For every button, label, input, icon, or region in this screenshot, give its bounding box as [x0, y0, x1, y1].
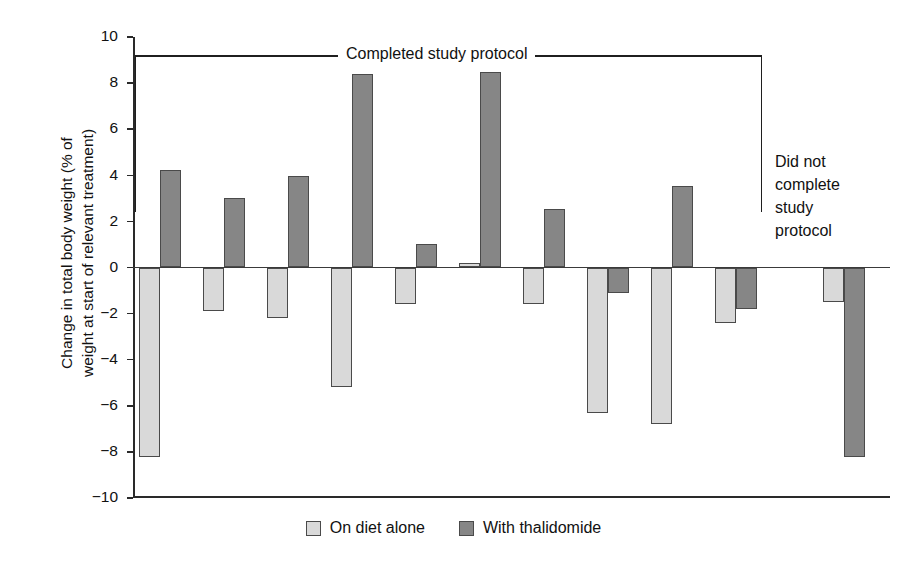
y-axis-title: Change in total body weight (% of weight…	[56, 58, 98, 448]
y-tick: −10	[127, 497, 133, 499]
y-tick: −4	[127, 359, 133, 361]
bar-with-thalidomide	[672, 186, 693, 268]
did-not-complete-study-protocol-note: Did not complete study protocol	[775, 150, 840, 242]
bar-on-diet-alone	[651, 268, 672, 425]
bar-on-diet-alone	[715, 268, 736, 323]
y-tick-label: 0	[109, 259, 118, 275]
y-tick-label: 2	[109, 213, 118, 229]
zero-line	[133, 267, 890, 268]
bar-on-diet-alone	[331, 268, 352, 388]
y-tick-label: 6	[109, 121, 118, 137]
bar-with-thalidomide	[608, 268, 629, 293]
y-tick-label: 8	[109, 75, 118, 91]
bar-with-thalidomide	[480, 72, 501, 268]
bar-with-thalidomide	[352, 74, 373, 268]
y-tick: 2	[127, 221, 133, 223]
legend-item-on-diet-alone: On diet alone	[306, 520, 425, 536]
bar-on-diet-alone	[823, 268, 844, 303]
light-swatch-icon	[306, 521, 321, 536]
chart-figure: Change in total body weight (% of weight…	[0, 0, 907, 574]
y-tick: 8	[127, 82, 133, 84]
bar-on-diet-alone	[523, 268, 544, 305]
bar-with-thalidomide	[224, 198, 245, 267]
bar-on-diet-alone	[139, 268, 160, 457]
bar-on-diet-alone	[395, 268, 416, 305]
bar-on-diet-alone	[587, 268, 608, 413]
bar-with-thalidomide	[844, 268, 865, 457]
y-tick-label: −4	[100, 351, 118, 367]
dark-swatch-icon	[459, 521, 474, 536]
bar-with-thalidomide	[288, 176, 309, 267]
bar-on-diet-alone	[459, 263, 480, 268]
bar-with-thalidomide	[736, 268, 757, 309]
bar-on-diet-alone	[203, 268, 224, 312]
y-tick: −8	[127, 451, 133, 453]
bar-with-thalidomide	[160, 170, 181, 268]
bar-with-thalidomide	[544, 209, 565, 268]
legend-label-on-diet-alone: On diet alone	[330, 520, 425, 536]
y-tick-label: −8	[100, 443, 118, 459]
y-tick-label: −6	[100, 397, 118, 413]
y-tick: −2	[127, 313, 133, 315]
chart-legend: On diet alone With thalidomide	[0, 520, 907, 536]
plot-area: 1086420−2−4−6−8−10	[133, 37, 890, 498]
y-tick: −6	[127, 405, 133, 407]
bar-on-diet-alone	[267, 268, 288, 319]
bar-with-thalidomide	[416, 244, 437, 267]
completed-study-protocol-label: Completed study protocol	[338, 46, 535, 62]
y-tick-label: −2	[100, 305, 118, 321]
y-tick-label: −10	[92, 490, 118, 506]
y-tick-label: 10	[101, 29, 118, 45]
x-axis-line	[133, 496, 890, 498]
y-tick-label: 4	[109, 167, 118, 183]
y-tick: 6	[127, 128, 133, 130]
y-tick: 10	[127, 36, 133, 38]
y-tick: 4	[127, 175, 133, 177]
legend-item-with-thalidomide: With thalidomide	[459, 520, 601, 536]
legend-label-with-thalidomide: With thalidomide	[483, 520, 601, 536]
